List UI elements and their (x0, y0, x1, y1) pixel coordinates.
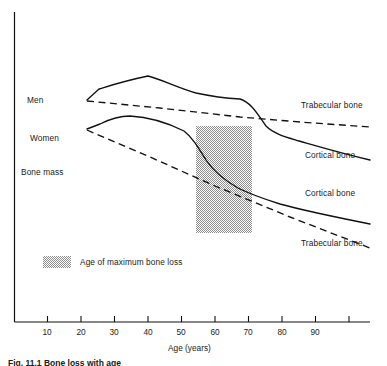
series-label-women: Women (30, 133, 59, 143)
x-tick-label-60: 60 (203, 327, 227, 337)
x-axis-ticks (48, 316, 350, 322)
label-men-cortical-bone: Cortical bone (305, 150, 355, 160)
legend-label: Age of maximum bone loss (80, 257, 182, 267)
figure-caption: Fig. 11.1 Bone loss with age (8, 358, 121, 366)
label-women-trabecular-bone: Trabecular bone (301, 238, 363, 248)
y-axis-title: Bone mass (21, 167, 63, 177)
x-tick-label-70: 70 (236, 327, 260, 337)
label-women-cortical-bone: Cortical bone (305, 188, 355, 198)
x-tick-label-50: 50 (169, 327, 193, 337)
legend-swatch (43, 256, 71, 268)
x-tick-label-30: 30 (102, 327, 126, 337)
x-tick-label-80: 80 (270, 327, 294, 337)
label-men-trabecular-bone: Trabecular bone (301, 100, 363, 110)
x-tick-label-20: 20 (69, 327, 93, 337)
x-tick-label-10: 10 (35, 327, 59, 337)
x-tick-label-90: 90 (303, 327, 327, 337)
series-label-men: Men (27, 95, 43, 105)
x-axis-title: Age (years) (168, 343, 211, 353)
x-tick-label-40: 40 (136, 327, 160, 337)
